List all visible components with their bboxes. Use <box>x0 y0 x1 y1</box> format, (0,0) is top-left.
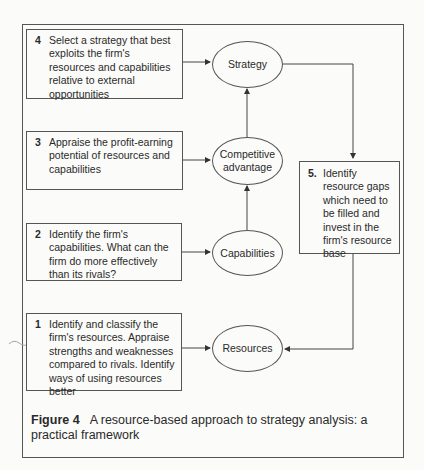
node-label: Strategy <box>228 58 267 71</box>
caption-label: Figure 4 <box>31 413 80 427</box>
step-1-box: 1 Identify and classify the firm's resou… <box>26 313 182 391</box>
node-strategy: Strategy <box>212 41 283 88</box>
step-number: 5. <box>308 167 323 249</box>
step-number: 3 <box>35 136 49 185</box>
step-4-box: 4 Select a strategy that best exploits t… <box>26 29 183 99</box>
step-number: 1 <box>35 318 49 386</box>
step-text: Identify resource gaps which need to be … <box>323 167 395 249</box>
node-label: Capabilities <box>220 247 274 260</box>
step-5-box: 5. Identify resource gaps which need to … <box>299 161 400 254</box>
step-text: Appraise the profit-earning potential of… <box>49 136 176 185</box>
step-number: 2 <box>35 228 49 276</box>
step-3-box: 3 Appraise the profit-earning potential … <box>26 131 183 190</box>
caption-text: A resource-based approach to strategy an… <box>31 413 368 442</box>
step-text: Identify the firm's capabilities. What c… <box>49 228 175 276</box>
node-competitive-advantage: Competitive advantage <box>212 137 283 185</box>
node-label: Competitive advantage <box>219 148 276 174</box>
node-label: Resources <box>222 342 272 355</box>
figure-caption: Figure 4A resource-based approach to str… <box>31 413 401 443</box>
step-number: 4 <box>35 34 49 94</box>
node-capabilities: Capabilities <box>212 230 283 276</box>
step-text: Identify and classify the firm's resourc… <box>49 318 175 386</box>
node-resources: Resources <box>212 325 283 372</box>
step-2-box: 2 Identify the firm's capabilities. What… <box>26 223 182 281</box>
step-text: Select a strategy that best exploits the… <box>49 34 176 94</box>
